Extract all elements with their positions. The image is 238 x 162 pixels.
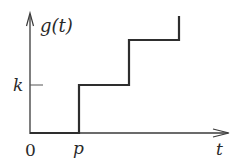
y-axis-label: g(t) bbox=[40, 15, 73, 36]
x-tick-label-p: p bbox=[73, 138, 84, 158]
x-axis-label: t bbox=[216, 139, 223, 159]
origin-label: 0 bbox=[25, 140, 36, 160]
step-function-chart: g(t) k 0 p t bbox=[0, 0, 238, 162]
y-tick-label-k: k bbox=[13, 75, 23, 95]
y-axis bbox=[27, 13, 34, 134]
